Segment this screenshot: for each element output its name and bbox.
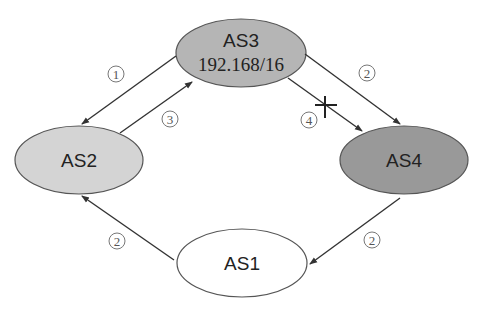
as-routing-diagram: AS3 192.168/16 AS2 AS4 AS1 1 3 2 4 — [0, 0, 479, 313]
node-as3: AS3 192.168/16 — [176, 19, 306, 87]
svg-text:2: 2 — [369, 233, 376, 248]
svg-text:3: 3 — [167, 112, 174, 127]
step-label-2-bottom-right: 2 — [364, 232, 380, 248]
edge-as3-to-as4 — [305, 54, 400, 124]
step-label-3: 3 — [162, 111, 178, 127]
svg-text:2: 2 — [114, 234, 121, 249]
as1-label: AS1 — [224, 253, 260, 274]
as2-label: AS2 — [61, 150, 97, 171]
svg-text:2: 2 — [364, 66, 371, 81]
as4-label: AS4 — [386, 150, 422, 171]
svg-text:1: 1 — [113, 67, 120, 82]
step-label-2-bottom-left: 2 — [109, 233, 125, 249]
edge-as2-to-as3 — [120, 82, 192, 133]
svg-text:4: 4 — [306, 113, 313, 128]
edge-as4-to-as1 — [310, 198, 400, 264]
step-label-4: 4 — [301, 112, 317, 128]
node-as1: AS1 — [177, 229, 307, 297]
step-label-2-top: 2 — [359, 65, 375, 81]
edge-as3-to-as2 — [82, 56, 176, 124]
as3-prefix: 192.168/16 — [198, 54, 284, 75]
node-as4: AS4 — [340, 126, 468, 194]
edge-as1-to-as2 — [82, 196, 174, 260]
as3-label: AS3 — [223, 30, 259, 51]
step-label-1: 1 — [108, 66, 124, 82]
node-as2: AS2 — [15, 126, 143, 194]
